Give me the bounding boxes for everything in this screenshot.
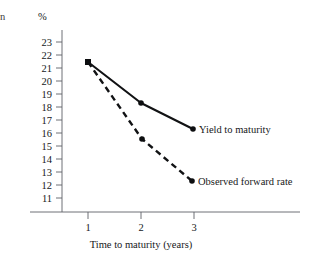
x-tick-label: 3 [191,222,196,233]
data-point-marker [138,100,144,106]
series-label-observed-forward-rate: Observed forward rate [198,176,293,187]
y-axis-tick-labels: 23 22 21 20 19 18 17 16 15 14 13 12 11 [42,37,53,204]
yield-curve-chart: n % 23 22 21 20 19 [0,0,316,259]
y-tick-label: 18 [42,102,53,113]
y-tick-label: 13 [42,167,53,178]
x-axis-ticks [88,212,194,219]
y-tick-label: 23 [42,37,53,48]
y-tick-label: 20 [42,76,53,87]
y-axis-unit-label: % [38,11,47,22]
data-point-marker [85,59,91,65]
y-tick-label: 21 [42,63,53,74]
x-tick-label: 2 [138,222,143,233]
data-point-marker [139,136,145,142]
y-tick-label: 15 [42,141,53,152]
y-tick-label: 19 [42,89,53,100]
x-axis-title: Time to maturity (years) [90,239,193,251]
y-tick-label: 12 [42,180,53,191]
x-axis-tick-labels: 1 2 3 [85,222,196,233]
x-tick-label: 1 [85,222,90,233]
y-tick-label: 16 [42,128,53,139]
corner-glyph: n [0,11,6,22]
y-tick-label: 17 [42,115,53,126]
y-tick-label: 22 [42,50,53,61]
data-point-marker [189,178,195,184]
y-tick-label: 14 [42,154,53,165]
y-tick-label: 11 [42,193,52,204]
series-line-yield-to-maturity [88,62,193,129]
series-label-yield-to-maturity: Yield to maturity [199,124,271,135]
data-point-marker [190,126,196,132]
figure-container: n % 23 22 21 20 19 [0,0,316,259]
y-axis-ticks [56,42,62,198]
